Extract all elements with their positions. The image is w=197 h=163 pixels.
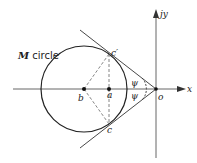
y-axis bbox=[153, 9, 159, 158]
x-axis-arrow-icon bbox=[177, 86, 186, 92]
label-a: a bbox=[107, 90, 112, 100]
label-y-axis: jy bbox=[158, 9, 169, 19]
label-psi-upper: ψ bbox=[131, 78, 139, 88]
upper-tangent-line bbox=[80, 30, 156, 89]
label-b: b bbox=[78, 93, 84, 103]
radius-b-c bbox=[84, 89, 109, 124]
label-psi-lower: ψ bbox=[131, 91, 139, 101]
point-origin bbox=[154, 87, 158, 91]
label-c-prime: c′ bbox=[111, 48, 118, 58]
radius-b-cprime bbox=[84, 54, 109, 89]
m-circle-label: M circle bbox=[17, 50, 59, 61]
label-c: c bbox=[107, 125, 112, 135]
label-x-axis: x bbox=[187, 84, 192, 94]
point-b bbox=[82, 87, 86, 91]
m-circle-diagram: M circle b a c′ c ψ ψ o x jy bbox=[0, 0, 197, 163]
y-axis-arrow-icon bbox=[153, 9, 159, 18]
label-origin: o bbox=[158, 92, 164, 102]
lower-tangent-line bbox=[80, 89, 156, 148]
